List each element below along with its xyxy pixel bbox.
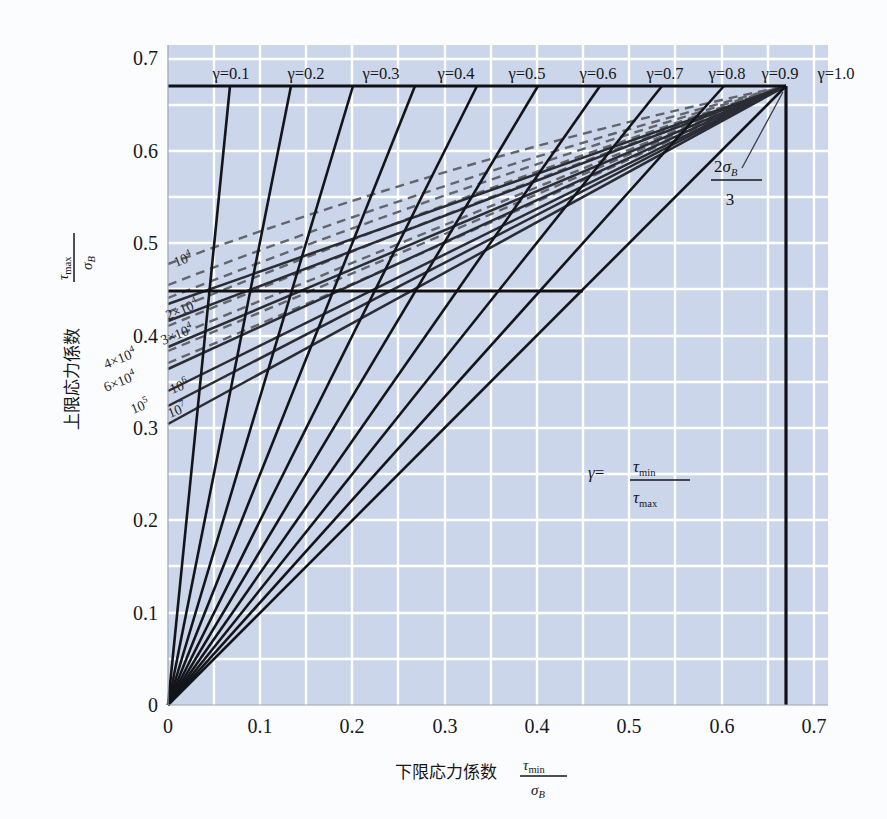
gamma-label-8: γ=0.9 [760, 64, 798, 83]
x-tick-6: 0.6 [710, 715, 735, 737]
y-axis-title: 上限応力係数 [62, 328, 82, 430]
y-tick-4: 0.4 [133, 325, 158, 347]
y-tick-2: 0.2 [133, 509, 158, 531]
x-tick-5: 0.5 [617, 715, 642, 737]
x-tick-4: 0.4 [525, 715, 550, 737]
x-tick-3: 0.3 [433, 715, 458, 737]
gamma-label-7: γ=0.8 [707, 64, 745, 83]
x-tick-1: 0.1 [248, 715, 273, 737]
y-tick-1: 0.1 [133, 602, 158, 624]
x-axis-title-jp: 下限応力係数 [395, 762, 497, 782]
y-tick-7: 0.7 [133, 47, 158, 69]
x-tick-7: 0.7 [802, 715, 827, 737]
y-tick-3: 0.3 [133, 417, 158, 439]
gamma-label-2: γ=0.3 [361, 64, 399, 83]
stress-coefficient-chart: 0 0.1 0.2 0.3 0.4 0.5 0.6 0.7 0 0.1 0.2 … [0, 0, 887, 819]
gamma-label-0: γ=0.1 [211, 64, 249, 83]
y-axis-title-jp: 上限応力係数 [62, 328, 82, 430]
gamma-label-1: γ=0.2 [286, 64, 324, 83]
gamma-label-9: γ=1.0 [816, 64, 854, 83]
x-tick-0: 0 [163, 715, 173, 737]
y-tick-5: 0.5 [133, 232, 158, 254]
limit-denominator: 3 [726, 190, 735, 209]
y-tick-0: 0 [148, 694, 158, 716]
gamma-label-3: γ=0.4 [436, 64, 474, 83]
x-tick-2: 0.2 [340, 715, 365, 737]
y-tick-6: 0.6 [133, 140, 158, 162]
gamma-label-6: γ=0.7 [645, 64, 683, 83]
gamma-def-symbol: γ= [588, 463, 604, 482]
gamma-label-5: γ=0.6 [578, 64, 616, 83]
figure-page: 0 0.1 0.2 0.3 0.4 0.5 0.6 0.7 0 0.1 0.2 … [0, 0, 887, 819]
gamma-label-4: γ=0.5 [507, 64, 545, 83]
